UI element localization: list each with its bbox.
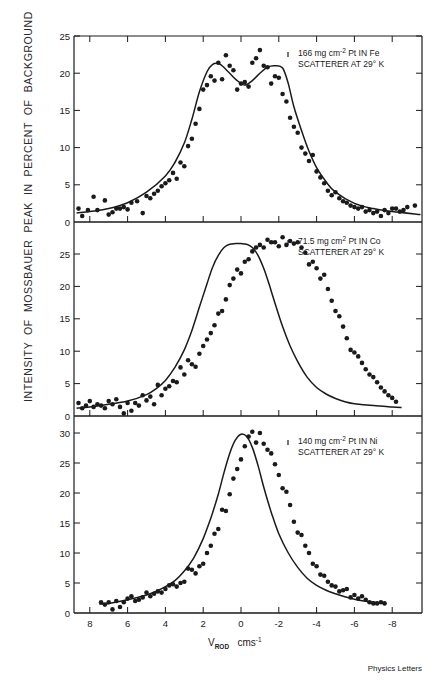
- data-point: [231, 476, 236, 481]
- data-point: [235, 467, 240, 472]
- data-point: [190, 568, 195, 573]
- data-point: [243, 260, 248, 265]
- x-tick-label: -4: [312, 618, 320, 629]
- data-point: [258, 243, 263, 248]
- data-point: [193, 571, 198, 576]
- data-point: [159, 590, 164, 595]
- data-point: [337, 314, 342, 319]
- data-point: [243, 444, 248, 449]
- data-point: [265, 65, 270, 70]
- data-point: [216, 527, 221, 532]
- data-point: [280, 235, 285, 240]
- data-point: [250, 430, 255, 435]
- x-tick-label: 6: [125, 618, 130, 629]
- x-tick-label: 4: [163, 618, 168, 629]
- data-point: [333, 309, 338, 314]
- panel-pt-in-fe: 0510152025166 mg cm-2 Pt IN FeSCATTERER …: [59, 31, 422, 228]
- y-tick-label: 10: [59, 346, 70, 357]
- fit-curve: [77, 244, 402, 409]
- data-point: [265, 237, 270, 242]
- data-point: [360, 361, 365, 366]
- data-point: [167, 178, 172, 183]
- data-point: [318, 175, 323, 180]
- data-point: [345, 336, 350, 341]
- data-point: [159, 184, 164, 189]
- y-tick-label: 0: [65, 411, 70, 422]
- data-point: [76, 206, 81, 211]
- data-point: [163, 587, 168, 592]
- data-point: [129, 594, 134, 599]
- data-point: [212, 532, 217, 537]
- data-point: [148, 594, 153, 599]
- data-point: [360, 594, 365, 599]
- data-point: [212, 323, 217, 328]
- data-point: [190, 136, 195, 141]
- data-point: [144, 398, 149, 403]
- data-point: [174, 584, 179, 589]
- data-point: [99, 403, 104, 408]
- data-point: [106, 399, 111, 404]
- data-point: [322, 574, 327, 579]
- data-point: [178, 160, 183, 165]
- data-point: [250, 61, 255, 66]
- data-point: [182, 164, 187, 169]
- svg-text:SCATTERER AT 29° K: SCATTERER AT 29° K: [298, 59, 384, 69]
- data-point: [254, 56, 259, 61]
- y-tick-label: 20: [59, 68, 70, 79]
- y-tick-label: 25: [59, 249, 70, 260]
- data-point: [314, 169, 319, 174]
- data-point: [356, 596, 361, 601]
- y-tick-label: 5: [65, 578, 70, 589]
- data-point: [303, 151, 308, 156]
- data-point: [345, 587, 350, 592]
- data-point: [152, 191, 157, 196]
- data-point: [288, 503, 293, 508]
- data-point: [201, 87, 206, 92]
- data-point: [246, 84, 251, 89]
- data-point: [235, 267, 240, 272]
- data-point: [295, 130, 300, 135]
- data-point: [91, 194, 96, 199]
- data-point: [363, 598, 368, 603]
- data-point: [135, 199, 140, 204]
- data-point: [140, 211, 145, 216]
- y-tick-label: 15: [59, 313, 70, 324]
- data-point: [174, 380, 179, 385]
- data-point: [386, 393, 391, 398]
- data-point: [311, 562, 316, 567]
- data-point: [390, 396, 395, 401]
- x-axis-label-unit-exponent: -1: [256, 636, 262, 643]
- x-tick-label: 2: [201, 618, 206, 629]
- data-point: [288, 116, 293, 121]
- data-point: [261, 442, 266, 447]
- x-tick-label: -8: [388, 618, 396, 629]
- data-point: [269, 451, 274, 456]
- data-point: [258, 431, 263, 436]
- data-point: [137, 403, 142, 408]
- data-point: [224, 297, 229, 302]
- y-tick-label: 15: [59, 105, 70, 116]
- data-point: [190, 362, 195, 367]
- data-point: [140, 595, 145, 600]
- data-point: [329, 298, 334, 303]
- data-point: [103, 198, 108, 203]
- data-point: [394, 399, 399, 404]
- data-point: [103, 602, 108, 607]
- data-point: [307, 159, 312, 164]
- data-point: [110, 402, 115, 407]
- data-point: [216, 61, 221, 66]
- data-point: [367, 208, 372, 213]
- x-axis-label: VROD cms-1: [208, 636, 262, 650]
- data-point: [284, 99, 289, 104]
- y-tick-label: 10: [59, 548, 70, 559]
- panel-annotation: 166 mg cm-2 Pt IN FeSCATTERER AT 29° K: [288, 47, 384, 70]
- data-point: [367, 372, 372, 377]
- data-point: [205, 551, 210, 556]
- data-point: [212, 78, 217, 83]
- data-point: [413, 203, 418, 208]
- data-point: [261, 245, 266, 250]
- panel-annotation: 71.5 mg cm2 Pt IN CoSCATTERER AT 29° K: [288, 235, 384, 258]
- data-point: [386, 211, 391, 216]
- data-point: [118, 605, 123, 610]
- y-tick-label: 5: [65, 378, 70, 389]
